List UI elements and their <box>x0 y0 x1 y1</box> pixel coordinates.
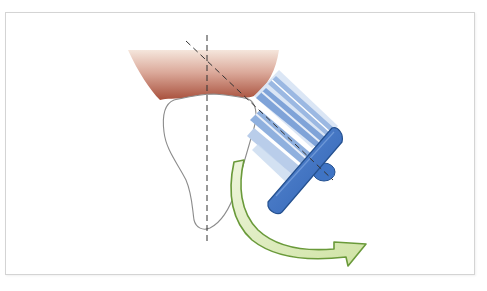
brushing-illustration <box>0 0 487 291</box>
